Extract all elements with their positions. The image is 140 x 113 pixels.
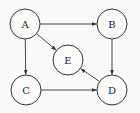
graph-diagram: ABECD [0, 0, 140, 113]
edge-a-c [25, 39, 26, 75]
node-d: D [97, 75, 127, 105]
node-label: C [22, 85, 30, 96]
node-label: D [108, 85, 116, 96]
node-c: C [11, 75, 41, 105]
edge-a-e [37, 34, 57, 50]
node-e: E [53, 45, 83, 75]
node-a: A [10, 9, 40, 39]
node-b: B [97, 9, 127, 39]
node-label: B [108, 19, 115, 30]
node-label: E [64, 55, 71, 66]
node-label: A [20, 19, 29, 30]
nodes: ABECD [10, 9, 127, 105]
edge-d-e [81, 69, 100, 82]
